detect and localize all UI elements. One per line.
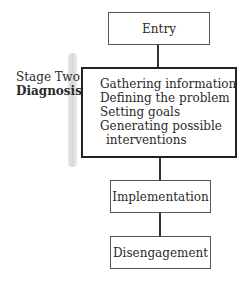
entry-node: Entry <box>108 12 210 45</box>
connector-entry-diagnosis <box>157 45 159 68</box>
connector-diagnosis-implementation <box>159 158 161 180</box>
connector-implementation-disengagement <box>159 213 161 236</box>
disengagement-node: Disengagement <box>110 236 211 269</box>
implementation-node: Implementation <box>110 180 211 213</box>
stage-label-name: Diagnosis <box>16 84 84 98</box>
diagnosis-item: Defining the problem <box>100 91 235 105</box>
diagnosis-item: Generating possible <box>100 119 235 133</box>
entry-label: Entry <box>142 22 176 36</box>
diagnosis-node: Gathering information Defining the probl… <box>81 67 237 158</box>
stage-label: Stage Two: Diagnosis <box>16 70 84 98</box>
diagnosis-item: Gathering information <box>100 77 235 91</box>
diagnosis-item: Setting goals <box>100 105 235 119</box>
disengagement-label: Disengagement <box>113 246 208 260</box>
diagnosis-item: interventions <box>100 133 235 147</box>
stage-label-number: Stage Two: <box>16 70 84 84</box>
implementation-label: Implementation <box>112 190 209 204</box>
